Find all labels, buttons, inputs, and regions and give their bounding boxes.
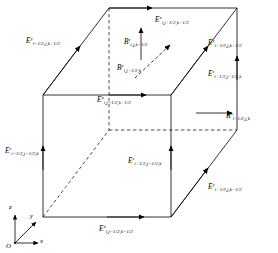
axis-label-x: x	[40, 238, 43, 245]
yee-cell-figure: Eyi−1/2,j,k+1/2Exi,j+1/2,k+1/2Eyi+1/2,j,…	[0, 0, 278, 253]
field-label-E-z-mid-front: Ezi+1/2,j−1/2,k	[128, 158, 161, 165]
axis-label-y: y	[30, 213, 33, 220]
field-superscript: z	[132, 156, 134, 161]
field-subscript: i−1/2,j,k+1/2	[33, 41, 60, 46]
field-label-E-x-top-back: Exi,j+1/2,k+1/2	[155, 17, 189, 24]
field-subscript: i+1/2,j,k	[233, 116, 250, 121]
field-label-B-z-center: Bzi,j,k−1/2	[124, 39, 148, 46]
field-label-E-y-top-right: Eyi+1/2,j,k+1/2	[208, 40, 242, 47]
field-superscript: z	[212, 69, 214, 74]
field-subscript: i,j,k−1/2	[130, 42, 147, 47]
field-subscript: i+1/2,j−1/2,k	[134, 161, 161, 166]
field-superscript: x	[101, 95, 103, 100]
field-subscript: i,j−1/2,k−1/2	[106, 229, 133, 234]
field-superscript: x	[103, 224, 105, 229]
field-superscript: y	[30, 36, 32, 41]
field-label-E-z-right-upper: Ezi+1/2,j+1/2,k	[208, 71, 241, 78]
axis-origin-dot	[14, 242, 16, 244]
field-superscript: z	[9, 146, 11, 151]
field-label-E-z-left-front: Ezi−1/2,j−1/2,k	[5, 148, 38, 155]
field-label-E-y-top-left: Eyi−1/2,j,k+1/2	[26, 38, 60, 45]
field-subscript: i,j−1/2,k+1/2	[104, 100, 131, 105]
field-subscript: i+1/2,j+1/2,k	[214, 74, 241, 79]
field-label-B-y-diagonal: Byi,j+1/2,k	[117, 65, 141, 72]
field-subscript: i,j+1/2,k+1/2	[162, 20, 189, 25]
arrow-E-y-bottom-right	[171, 168, 208, 217]
axis-y	[15, 222, 36, 243]
field-superscript: y	[212, 38, 214, 43]
arrow-E-y-top-left	[43, 46, 80, 95]
field-superscript: x	[159, 15, 161, 20]
arrow-E-y-top-right	[171, 46, 208, 95]
field-subscript: i,j+1/2,k	[124, 68, 141, 73]
field-subscript: i+1/2,j,k+1/2	[215, 43, 242, 48]
field-superscript: x	[230, 111, 232, 116]
field-label-B-x-right: Bxi+1/2,j,k	[226, 113, 250, 120]
field-label-E-x-bottom-front: Exi,j−1/2,k−1/2	[99, 226, 133, 233]
field-subscript: i+1/2,j,k−1/2	[215, 187, 242, 192]
field-subscript: i−1/2,j−1/2,k	[11, 151, 38, 156]
field-superscript: y	[212, 182, 214, 187]
field-label-E-y-bottom-right: Eyi+1/2,j,k−1/2	[208, 184, 242, 191]
field-superscript: y	[121, 63, 123, 68]
cube-front-face	[43, 95, 171, 217]
axis-label-z: z	[9, 204, 12, 211]
axis-label-origin: O	[6, 243, 11, 250]
coordinate-axes	[14, 215, 38, 244]
field-label-E-x-mid-front: Exi,j−1/2,k+1/2	[97, 97, 131, 104]
field-superscript: z	[128, 37, 130, 42]
